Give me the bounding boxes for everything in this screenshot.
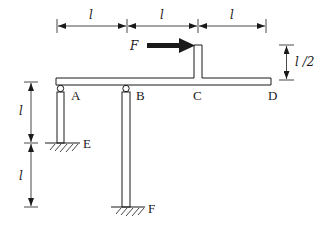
roller-b-icon [123, 85, 129, 91]
right-dimension [279, 45, 294, 80]
force-arrow-icon [147, 38, 195, 53]
column-bf [122, 92, 130, 207]
dim-label-bc: l [160, 8, 164, 22]
force-label: F [129, 39, 139, 53]
dim-label-ae: l [19, 104, 23, 118]
node-label-f: F [148, 201, 155, 216]
dim-label-ab: l [89, 8, 93, 22]
node-label-c: C [193, 88, 202, 103]
dim-label-ef: l [19, 169, 23, 183]
fixed-support-f-icon [111, 207, 145, 216]
node-label-d: D [268, 88, 277, 103]
left-dimension [24, 82, 38, 207]
roller-a-icon [57, 85, 63, 91]
structural-diagram: l l l F l /2 [0, 0, 329, 231]
node-label-b: B [136, 88, 145, 103]
node-label-a: A [71, 88, 81, 103]
beam-with-post [56, 45, 271, 85]
fixed-support-e-icon [45, 143, 80, 152]
column-ae [57, 92, 64, 143]
dim-label-half: l /2 [295, 55, 314, 69]
node-label-e: E [83, 136, 91, 151]
dim-label-cd: l [230, 8, 234, 22]
